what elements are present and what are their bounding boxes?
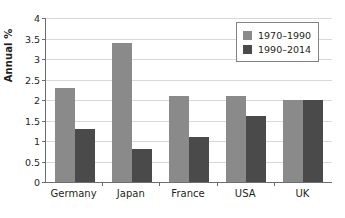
x-tick-mark (159, 182, 160, 186)
legend-label: 1970–1990 (258, 30, 311, 41)
bar (132, 149, 152, 182)
legend-swatch-icon (243, 45, 252, 54)
bar (112, 43, 132, 182)
y-tick-label: 4 (34, 13, 40, 24)
legend-item: 1970–1990 (243, 28, 311, 42)
x-tick-label: USA (235, 188, 256, 199)
bar-chart: Annual % 00.511.522.533.54 GermanyJapanF… (0, 0, 345, 218)
legend-label: 1990–2014 (258, 44, 311, 55)
bar (75, 129, 95, 182)
y-axis-title: Annual % (0, 10, 18, 100)
bar (169, 96, 189, 182)
bar-group (55, 18, 95, 182)
x-axis: GermanyJapanFranceUSAUK (45, 186, 331, 208)
bar (189, 137, 209, 182)
y-tick-mark (42, 182, 46, 183)
y-tick-label: 0.5 (25, 156, 40, 167)
y-axis-title-label: Annual % (4, 28, 15, 82)
y-tick-label: 3.5 (25, 33, 40, 44)
legend-item: 1990–2014 (243, 42, 311, 56)
x-tick-mark (274, 182, 275, 186)
x-tick-label: UK (295, 188, 309, 199)
axis-baseline (46, 182, 332, 183)
x-tick-mark (102, 182, 103, 186)
y-tick-label: 0 (34, 177, 40, 188)
x-tick-label: Japan (117, 188, 145, 199)
y-tick-label: 1 (34, 136, 40, 147)
x-tick-label: Germany (51, 188, 97, 199)
y-tick-label: 2.5 (25, 74, 40, 85)
legend-swatch-icon (243, 31, 252, 40)
y-tick-label: 3 (34, 54, 40, 65)
bar-group (169, 18, 209, 182)
y-tick-label: 2 (34, 95, 40, 106)
x-tick-label: France (171, 188, 204, 199)
y-tick-label: 1.5 (25, 115, 40, 126)
bar (303, 100, 323, 182)
chart-legend: 1970–19901990–2014 (236, 22, 319, 62)
bar (55, 88, 75, 182)
bar (226, 96, 246, 182)
bar-group (112, 18, 152, 182)
bar (246, 116, 266, 182)
x-tick-mark (217, 182, 218, 186)
bar (283, 100, 303, 182)
